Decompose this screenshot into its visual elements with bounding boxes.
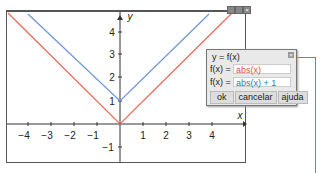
svg-text:2: 2 xyxy=(109,72,115,83)
function-label: f(x) = xyxy=(210,64,233,74)
connector-line-vertical xyxy=(315,57,316,173)
svg-text:x: x xyxy=(237,110,244,121)
function-input-2[interactable]: abs(x) + 1 xyxy=(233,77,291,87)
close-window-button[interactable]: × xyxy=(243,6,251,14)
svg-text:−1: −1 xyxy=(102,142,114,153)
svg-text:−4: −4 xyxy=(18,130,30,141)
dialog-buttons: ok cancelar ajuda xyxy=(210,91,308,104)
function-input-1[interactable]: abs(x) xyxy=(233,64,291,74)
svg-text:4: 4 xyxy=(209,130,215,141)
svg-text:4: 4 xyxy=(109,27,115,38)
dialog-title: y = f(x) xyxy=(212,52,240,62)
function-dialog: y = f(x) × f(x) = abs(x) f(x) = abs(x) +… xyxy=(206,49,297,106)
svg-text:y: y xyxy=(127,11,134,22)
svg-text:−1: −1 xyxy=(87,130,99,141)
ok-button[interactable]: ok xyxy=(210,91,234,104)
function-row-2: f(x) = abs(x) + 1 xyxy=(210,76,291,87)
svg-text:1: 1 xyxy=(140,130,146,141)
maximize-button[interactable] xyxy=(235,6,243,14)
close-icon[interactable]: × xyxy=(288,52,294,58)
svg-text:3: 3 xyxy=(109,49,115,60)
svg-text:3: 3 xyxy=(186,130,192,141)
function-row-1: f(x) = abs(x) xyxy=(210,63,291,74)
svg-text:2: 2 xyxy=(163,130,169,141)
cancel-button[interactable]: cancelar xyxy=(235,91,277,104)
window-controls: × xyxy=(227,6,251,14)
svg-text:1: 1 xyxy=(109,96,115,107)
svg-text:−2: −2 xyxy=(64,130,76,141)
abs-x-plus-1-curve xyxy=(28,14,209,101)
svg-text:−3: −3 xyxy=(41,130,53,141)
function-label: f(x) = xyxy=(210,77,233,87)
help-button[interactable]: ajuda xyxy=(278,91,308,104)
minimize-button[interactable] xyxy=(227,6,235,14)
